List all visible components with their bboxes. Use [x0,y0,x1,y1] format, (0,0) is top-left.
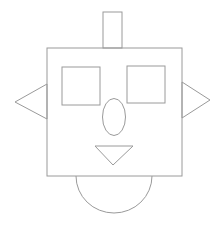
right-eye [127,66,165,103]
left-ear [15,84,47,119]
left-eye [62,67,100,105]
nose-ellipse [103,99,126,136]
right-ear [182,82,210,118]
chin-semicircle [76,176,152,213]
mouth-triangle [95,146,133,165]
robot-face-drawing [0,0,224,231]
antenna [103,12,122,48]
